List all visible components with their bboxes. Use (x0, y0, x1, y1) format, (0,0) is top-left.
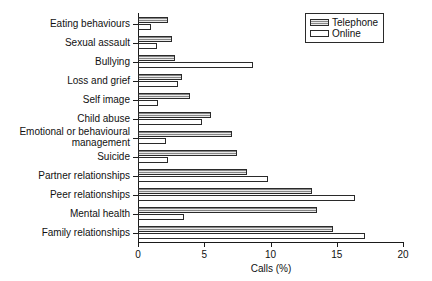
bar-telephone (138, 169, 247, 175)
bar-online (138, 81, 178, 87)
x-axis-tick-label: 0 (123, 249, 153, 260)
x-axis-tick (403, 242, 404, 247)
bar-telephone (138, 55, 175, 61)
legend-item-online: Online (310, 28, 378, 39)
y-axis-label: Sexual assault (65, 37, 130, 48)
bar-telephone (138, 17, 168, 23)
bar-telephone (138, 226, 333, 232)
bar-online (138, 100, 158, 106)
bar-telephone (138, 74, 182, 80)
x-axis-tick-label: 15 (322, 249, 352, 260)
bar-online (138, 195, 355, 201)
legend-swatch-telephone (310, 19, 329, 26)
x-axis-tick (337, 242, 338, 247)
bar-online (138, 233, 365, 239)
legend-label-telephone: Telephone (332, 17, 378, 28)
plot-area (138, 14, 403, 242)
y-axis-label: Family relationships (42, 227, 130, 238)
bar-telephone (138, 131, 232, 137)
bar-online (138, 24, 151, 30)
x-axis-tick (138, 242, 139, 247)
legend-item-telephone: Telephone (310, 17, 378, 28)
bar-online (138, 176, 268, 182)
y-axis-label: Emotional or behavioural management (19, 126, 130, 148)
y-axis-label: Loss and grief (67, 75, 130, 86)
bar-online (138, 157, 168, 163)
x-axis-tick-label: 5 (189, 249, 219, 260)
bar-telephone (138, 207, 317, 213)
chart-legend: Telephone Online (305, 13, 384, 43)
x-axis-tick-label: 10 (256, 249, 286, 260)
y-axis-label: Self image (83, 94, 130, 105)
bar-online (138, 119, 202, 125)
bar-telephone (138, 188, 312, 194)
x-axis-title: Calls (%) (138, 263, 404, 274)
y-axis-label: Child abuse (77, 113, 130, 124)
bar-online (138, 214, 184, 220)
x-axis-tick-label: 20 (388, 249, 418, 260)
bar-telephone (138, 36, 172, 42)
legend-label-online: Online (332, 28, 361, 39)
bar-telephone (138, 93, 190, 99)
y-axis-label: Mental health (70, 208, 130, 219)
bar-telephone (138, 112, 211, 118)
y-axis-label: Partner relationships (38, 170, 130, 181)
y-axis-label: Bullying (95, 56, 130, 67)
y-axis-label: Eating behaviours (50, 18, 130, 29)
bar-online (138, 62, 253, 68)
bar-online (138, 43, 157, 49)
x-axis-tick (271, 242, 272, 247)
legend-swatch-online (310, 30, 329, 37)
y-axis-label: Suicide (97, 151, 130, 162)
x-axis-tick (204, 242, 205, 247)
bar-telephone (138, 150, 237, 156)
bar-chart: Eating behavioursSexual assaultBullyingL… (0, 0, 432, 281)
bar-online (138, 138, 166, 144)
y-axis-label: Peer relationships (50, 189, 130, 200)
